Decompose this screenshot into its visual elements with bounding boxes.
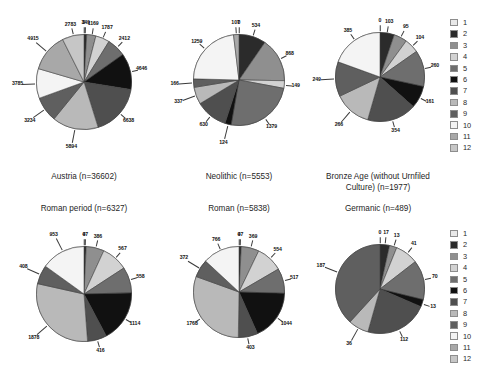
pie-value-label: 112 <box>400 337 408 342</box>
label-leader-line <box>425 278 430 280</box>
legend-swatch-8 <box>450 99 458 107</box>
pie-value-label: 534 <box>252 23 260 28</box>
legend-item-9[interactable]: 9 <box>450 319 471 330</box>
pie-value-label: 1044 <box>281 321 292 326</box>
pie-value-label: 161 <box>426 100 434 105</box>
legend-item-7[interactable]: 7 <box>450 296 471 307</box>
legend-label-4: 4 <box>463 53 467 60</box>
legend-item-4[interactable]: 4 <box>450 51 471 62</box>
legend-item-5[interactable]: 5 <box>450 63 471 74</box>
legend-item-6[interactable]: 6 <box>450 74 471 85</box>
caption-roman: Roman (n=5838) <box>164 204 314 215</box>
legend-label-4: 4 <box>463 264 467 271</box>
pie-value-label: 266 <box>335 123 343 128</box>
pie-value-label: 3234 <box>24 118 35 123</box>
pie-value-label: 1114 <box>130 321 141 326</box>
legend-item-10[interactable]: 10 <box>450 120 471 131</box>
legend-item-12[interactable]: 12 <box>450 353 471 364</box>
legend-item-5[interactable]: 5 <box>450 274 471 285</box>
label-leader-line <box>425 67 430 69</box>
legend-swatch-9 <box>450 110 458 118</box>
pie-svg-austria <box>36 34 132 130</box>
pie-value-label: 403 <box>246 345 254 350</box>
legend-swatch-7 <box>450 298 458 306</box>
pie-value-label: 17 <box>383 231 389 236</box>
legend-item-12[interactable]: 12 <box>450 142 471 153</box>
pie-value-label: 369 <box>249 234 257 239</box>
legend-item-4[interactable]: 4 <box>450 262 471 273</box>
pie-value-label: 149 <box>292 83 300 88</box>
pie-value-label: 5894 <box>66 145 77 150</box>
legend-item-6[interactable]: 6 <box>450 285 471 296</box>
label-leader-line <box>321 79 334 80</box>
legend-swatch-3 <box>450 253 458 261</box>
legend-bottom: 123456789101112 <box>450 228 471 365</box>
legend-swatch-7 <box>450 87 458 95</box>
legend-item-2[interactable]: 2 <box>450 28 471 39</box>
pie-austria <box>36 34 132 130</box>
legend-label-11: 11 <box>463 133 471 140</box>
legend-swatch-11 <box>450 344 458 352</box>
legend-item-10[interactable]: 10 <box>450 331 471 342</box>
pie-value-label: 554 <box>273 248 281 253</box>
legend-label-7: 7 <box>463 87 467 94</box>
pie-value-label: 354 <box>391 128 399 133</box>
legend-item-3[interactable]: 3 <box>450 40 471 51</box>
legend-swatch-11 <box>450 133 458 141</box>
legend-item-8[interactable]: 8 <box>450 308 471 319</box>
legend-item-9[interactable]: 9 <box>450 108 471 119</box>
legend-label-11: 11 <box>463 344 471 351</box>
legend-item-7[interactable]: 7 <box>450 85 471 96</box>
pie-value-label: 6638 <box>123 118 134 123</box>
legend-top: 123456789101112 <box>450 17 471 154</box>
pie-value-label: 386 <box>94 234 102 239</box>
legend-swatch-1 <box>450 19 458 27</box>
pie-value-label: 1379 <box>266 124 277 129</box>
pie-value-label: 1169 <box>88 21 99 26</box>
label-leader-line <box>97 341 99 346</box>
legend-swatch-8 <box>450 310 458 318</box>
legend-item-3[interactable]: 3 <box>450 251 471 262</box>
pie-value-label: 416 <box>96 348 104 353</box>
legend-swatch-5 <box>450 276 458 284</box>
legend-item-2[interactable]: 2 <box>450 239 471 250</box>
chart-cell-germanic: 0171341701311236187 <box>313 222 445 387</box>
pie-svg-roman-period <box>36 246 132 342</box>
label-leader-line <box>22 84 35 85</box>
label-leader-line <box>286 85 292 86</box>
pie-value-label: 103 <box>385 19 393 24</box>
pie-value-label: 0 <box>379 230 382 235</box>
pie-value-label: 1787 <box>102 25 113 30</box>
legend-swatch-6 <box>450 287 458 295</box>
label-leader-line <box>72 130 75 143</box>
legend-item-1[interactable]: 1 <box>450 17 471 28</box>
legend-item-11[interactable]: 11 <box>450 131 471 142</box>
legend-swatch-4 <box>450 264 458 272</box>
pie-value-label: 104 <box>416 35 424 40</box>
legend-swatch-5 <box>450 65 458 73</box>
label-leader-line <box>85 240 86 246</box>
pie-roman <box>193 246 285 338</box>
legend-label-5: 5 <box>463 276 467 283</box>
legend-label-10: 10 <box>463 122 471 129</box>
caption-roman-period: Roman period (n=6327) <box>4 204 164 215</box>
legend-item-11[interactable]: 11 <box>450 342 471 353</box>
legend-label-8: 8 <box>463 310 467 317</box>
legend-label-7: 7 <box>463 298 467 305</box>
legend-item-1[interactable]: 1 <box>450 228 471 239</box>
label-leader-line <box>380 26 381 32</box>
pie-roman-period <box>36 246 132 342</box>
legend-item-8[interactable]: 8 <box>450 97 471 108</box>
legend-label-9: 9 <box>463 110 467 117</box>
pie-svg-roman <box>193 246 285 338</box>
legend-label-12: 12 <box>463 144 471 151</box>
pie-bronze-age <box>335 32 425 122</box>
label-leader-line <box>380 238 381 244</box>
pie-value-label: 1768 <box>187 322 198 327</box>
pie-value-label: 517 <box>290 275 298 280</box>
label-leader-line <box>240 240 241 246</box>
pie-slice-neolithic-5[interactable] <box>231 80 284 126</box>
pie-value-label: 558 <box>136 274 144 279</box>
pie-svg-germanic <box>335 244 425 334</box>
label-leader-line <box>236 28 237 34</box>
